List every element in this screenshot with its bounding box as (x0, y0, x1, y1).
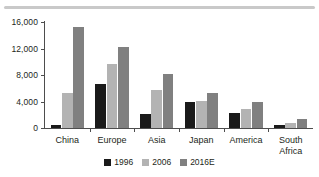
bar (73, 27, 84, 128)
y-axis-tick-label: 0 (33, 124, 38, 133)
y-axis-tick-label: 16,000 (11, 18, 38, 27)
bar (95, 84, 106, 128)
category-label-line: Africa (262, 146, 319, 157)
bar (207, 93, 218, 128)
bar-group (229, 22, 262, 128)
legend-swatch (142, 159, 149, 166)
legend-item: 2006 (142, 158, 171, 167)
legend-label: 2016E (190, 158, 215, 167)
chart-legend: 199620062016E (0, 158, 319, 167)
bar (274, 125, 285, 128)
bar (229, 113, 240, 128)
bar-group (274, 22, 307, 128)
bar (196, 101, 207, 128)
plot-area (45, 22, 313, 128)
bar (62, 93, 73, 128)
bar (252, 102, 263, 129)
bar (151, 90, 162, 128)
x-axis-tick (90, 128, 91, 132)
bar (107, 64, 118, 128)
bar-group (140, 22, 173, 128)
legend-item: 1996 (104, 158, 133, 167)
legend-swatch (180, 159, 187, 166)
bar (241, 109, 252, 128)
legend-item: 2016E (180, 158, 215, 167)
bar-group (51, 22, 84, 128)
bar-group (185, 22, 218, 128)
bar-group (95, 22, 128, 128)
y-axis-tick (41, 128, 45, 129)
y-axis-tick-label: 12,000 (11, 45, 38, 54)
x-axis-tick (224, 128, 225, 132)
bar-chart-figure: 04,0008,00012,00016,000 ChinaEuropeAsiaJ… (0, 0, 319, 177)
x-axis-tick (134, 128, 135, 132)
x-axis-tick (179, 128, 180, 132)
bar (163, 74, 174, 128)
bar (185, 102, 196, 128)
y-axis-tick-label: 4,000 (16, 98, 38, 107)
bar (51, 125, 62, 128)
bar (140, 114, 151, 128)
bar (285, 123, 296, 128)
legend-label: 1996 (114, 158, 133, 167)
legend-label: 2006 (152, 158, 171, 167)
x-axis-tick (268, 128, 269, 132)
y-axis-tick-label: 8,000 (16, 71, 38, 80)
top-divider (4, 6, 315, 9)
bar (118, 47, 129, 128)
x-axis-category-label: SouthAfrica (262, 135, 319, 156)
category-label-line: South (262, 135, 319, 146)
legend-swatch (104, 159, 111, 166)
bar (297, 119, 308, 128)
